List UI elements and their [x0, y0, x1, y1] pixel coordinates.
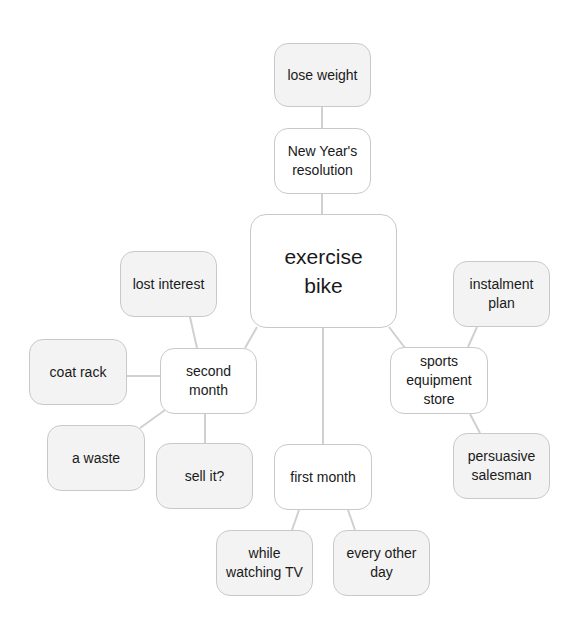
node-label: New Year's resolution: [288, 142, 358, 180]
node-lose-weight[interactable]: lose weight: [274, 43, 371, 107]
edge-persuasive-salesman-to-sports-equipment-store: [470, 414, 480, 433]
node-label: exercise bike: [284, 242, 362, 300]
node-sports-equipment-store[interactable]: sports equipment store: [390, 347, 488, 414]
edge-center-to-sports-equipment-store: [389, 327, 405, 348]
node-first-month[interactable]: first month: [274, 444, 372, 510]
node-label: sports equipment store: [406, 352, 471, 409]
edge-center-to-second-month: [245, 327, 257, 348]
node-label: every other day: [346, 544, 416, 582]
node-label: lost interest: [133, 275, 205, 294]
node-label: lose weight: [287, 66, 357, 85]
node-label: sell it?: [185, 467, 225, 486]
node-label: while watching TV: [226, 544, 303, 582]
node-a-waste[interactable]: a waste: [47, 425, 145, 491]
node-label: second month: [186, 362, 231, 400]
node-center[interactable]: exercise bike: [250, 214, 397, 328]
edge-first-month-to-every-other-day: [348, 510, 355, 530]
node-new-years-resolution[interactable]: New Year's resolution: [274, 128, 371, 194]
node-second-month[interactable]: second month: [160, 348, 257, 414]
node-instalment-plan[interactable]: instalment plan: [453, 261, 550, 327]
node-label: a waste: [72, 449, 120, 468]
node-while-watching-tv[interactable]: while watching TV: [216, 530, 313, 596]
edge-first-month-to-while-watching-tv: [292, 510, 299, 530]
node-label: coat rack: [50, 363, 107, 382]
edge-a-waste-to-second-month: [140, 410, 165, 428]
node-every-other-day[interactable]: every other day: [333, 530, 430, 596]
node-label: persuasive salesman: [468, 447, 536, 485]
node-label: first month: [290, 468, 355, 487]
node-label: instalment plan: [470, 275, 534, 313]
node-lost-interest[interactable]: lost interest: [120, 251, 217, 317]
node-sell-it[interactable]: sell it?: [156, 443, 253, 509]
node-coat-rack[interactable]: coat rack: [29, 339, 127, 405]
mind-map-canvas: exercise bikeNew Year's resolutionlose w…: [0, 0, 585, 624]
edge-instalment-plan-to-sports-equipment-store: [468, 327, 477, 347]
node-persuasive-salesman[interactable]: persuasive salesman: [453, 433, 550, 499]
edge-lost-interest-to-second-month: [190, 317, 197, 348]
